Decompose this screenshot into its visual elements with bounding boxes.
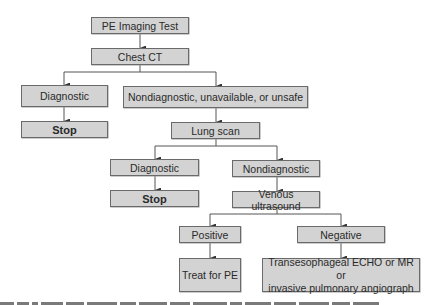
- node-ls-diagnostic: Diagnostic: [110, 159, 199, 176]
- node-venous-ultrasound: Venous ultrasound: [232, 191, 320, 208]
- node-lung-scan: Lung scan: [171, 122, 260, 139]
- node-pe-imaging-test: PE Imaging Test: [91, 17, 189, 34]
- node-further-imaging: Transesophageal ECHO or MR or invasive p…: [262, 258, 420, 292]
- node-ct-stop: Stop: [21, 121, 108, 138]
- node-treat-for-pe: Treat for PE: [179, 258, 241, 292]
- node-us-positive: Positive: [179, 226, 241, 243]
- node-ct-nondiagnostic: Nondiagnostic, unavailable, or unsafe: [123, 86, 308, 108]
- node-us-negative: Negative: [297, 226, 385, 243]
- node-chest-ct: Chest CT: [91, 48, 189, 65]
- further-imaging-line-2: invasive pulmonary angiograph: [268, 282, 413, 295]
- further-imaging-line-1: Transesophageal ECHO or MR or: [265, 256, 417, 282]
- node-ct-diagnostic: Diagnostic: [21, 85, 108, 107]
- node-ls-nondiagnostic: Nondiagnostic: [232, 160, 320, 177]
- node-ls-stop: Stop: [110, 190, 199, 207]
